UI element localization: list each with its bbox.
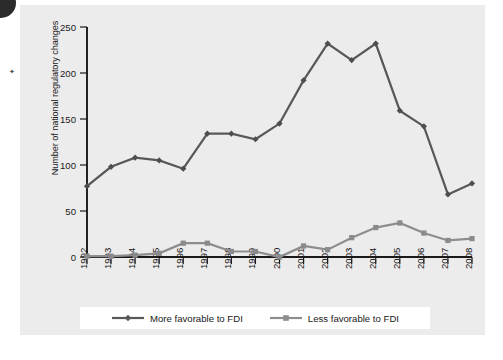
y-tick-label: 250	[60, 22, 76, 33]
data-point-marker	[229, 249, 234, 254]
x-tick-label: 2008	[463, 248, 474, 269]
x-tick-label: 2001	[295, 248, 306, 269]
data-point-marker	[84, 253, 89, 258]
scan-artifact-blob	[0, 0, 16, 18]
legend-label: More favorable to FDI	[150, 313, 243, 324]
square-marker	[269, 312, 303, 324]
x-tick-label-group: 1992199319941995199619971998199920002001…	[78, 247, 474, 269]
data-point-marker	[253, 249, 258, 254]
scan-artifact-speck: ✦	[9, 70, 13, 74]
data-point-marker	[181, 241, 186, 246]
legend-label: Less favorable to FDI	[308, 313, 399, 324]
data-point-marker	[132, 155, 138, 161]
data-point-marker	[397, 220, 402, 225]
legend-entry[interactable]: Less favorable to FDI	[269, 312, 399, 324]
data-point-marker	[228, 131, 234, 137]
data-point-marker	[325, 247, 330, 252]
data-point-marker	[373, 225, 378, 230]
data-point-marker	[469, 236, 474, 241]
y-tick-label: 50	[65, 206, 76, 217]
y-tick-mark-group	[80, 27, 87, 257]
data-point-marker	[421, 230, 426, 235]
legend-entry[interactable]: More favorable to FDI	[111, 312, 243, 324]
chart-figure-panel: Number of national regulatory changes 05…	[20, 5, 485, 335]
data-point-marker	[157, 251, 162, 256]
y-tick-label: 0	[71, 252, 76, 263]
series-line-more-favorable	[87, 44, 472, 195]
y-tick-label: 150	[60, 114, 76, 125]
data-series-group	[84, 40, 475, 259]
data-point-marker	[277, 254, 282, 259]
data-point-marker	[133, 253, 138, 258]
x-tick-label: 1994	[126, 247, 137, 269]
data-point-marker	[301, 243, 306, 248]
line-chart-plot: 050100150200250 199219931994199519961997…	[20, 5, 485, 335]
x-tick-label: 2005	[391, 248, 402, 269]
data-point-marker	[205, 241, 210, 246]
x-tick-label: 2004	[367, 247, 378, 269]
data-point-marker	[445, 238, 450, 243]
diamond-marker	[111, 312, 145, 324]
chart-legend: More favorable to FDILess favorable to F…	[80, 307, 430, 329]
x-tick-label: 1996	[174, 248, 185, 269]
data-point-marker	[108, 253, 113, 258]
data-point-marker	[349, 235, 354, 240]
x-tick-label: 1997	[198, 248, 209, 269]
y-tick-label-group: 050100150200250	[60, 22, 76, 263]
data-point-marker	[156, 157, 162, 163]
y-tick-label: 200	[60, 68, 76, 79]
y-tick-label: 100	[60, 160, 76, 171]
x-tick-label: 2006	[415, 248, 426, 269]
chart-axis-lines	[87, 27, 472, 257]
x-tick-label: 2003	[343, 248, 354, 269]
x-tick-label: 2007	[439, 248, 450, 269]
